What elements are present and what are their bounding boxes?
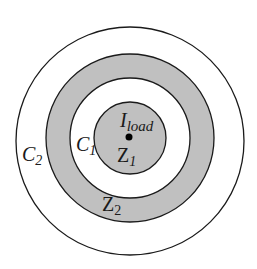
concentric-zones-diagram: Iload Z1 C1 Z2 C2	[0, 0, 257, 269]
load-point-dot	[126, 134, 133, 141]
